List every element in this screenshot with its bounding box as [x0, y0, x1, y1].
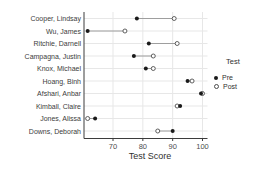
x-axis-title: Test Score: [90, 151, 210, 161]
post-dot: [175, 42, 179, 46]
dot-plot-figure: 708090100Cooper, LindsayWu, JamesRitchie…: [0, 0, 262, 176]
post-dot: [190, 79, 194, 83]
legend-item-label: Pre: [222, 74, 233, 81]
post-dot: [156, 129, 160, 133]
pre-dot: [132, 54, 136, 58]
post-dot: [172, 17, 176, 21]
y-axis-label: Ritchie, Darnell: [34, 40, 82, 47]
legend-item-pre: Pre: [210, 73, 256, 82]
legend-item-post: Post: [210, 82, 256, 91]
legend-title: Test: [210, 57, 256, 66]
y-axis-label: Campagna, Justin: [25, 53, 82, 61]
x-tick-label: 70: [109, 142, 117, 151]
y-axis-label: Wu, James: [46, 28, 81, 35]
y-axis-label: Afshari, Anbar: [37, 90, 82, 97]
pre-dot: [135, 17, 139, 21]
x-tick-label: 100: [196, 142, 209, 151]
y-axis-label: Knox, Michael: [37, 65, 81, 72]
legend-item-label: Post: [223, 83, 237, 90]
post-dot: [123, 29, 127, 33]
legend: Test Pre Post: [210, 57, 256, 91]
post-dot: [151, 54, 155, 58]
y-axis-label: Kimball, Claire: [36, 103, 81, 110]
x-tick-label: 80: [139, 142, 147, 151]
y-axis-label: Downs, Deborah: [29, 128, 81, 135]
post-dot: [151, 67, 155, 71]
pre-dot: [144, 67, 148, 71]
pre-dot: [147, 42, 151, 46]
post-open-dot-icon: [214, 84, 219, 89]
pre-dot: [186, 79, 190, 83]
post-dot: [86, 117, 90, 121]
x-tick-label: 90: [168, 142, 176, 151]
pre-dot: [171, 129, 175, 133]
y-axis-label: Hoang, Binh: [42, 78, 81, 86]
pre-dot: [93, 117, 97, 121]
y-axis-label: Cooper, Lindsay: [30, 15, 81, 23]
pre-dot: [86, 29, 90, 33]
y-axis-label: Jones, Alissa: [40, 115, 81, 122]
pre-dot: [199, 92, 203, 96]
pre-filled-dot-icon: [214, 76, 218, 80]
pre-dot: [178, 104, 182, 108]
